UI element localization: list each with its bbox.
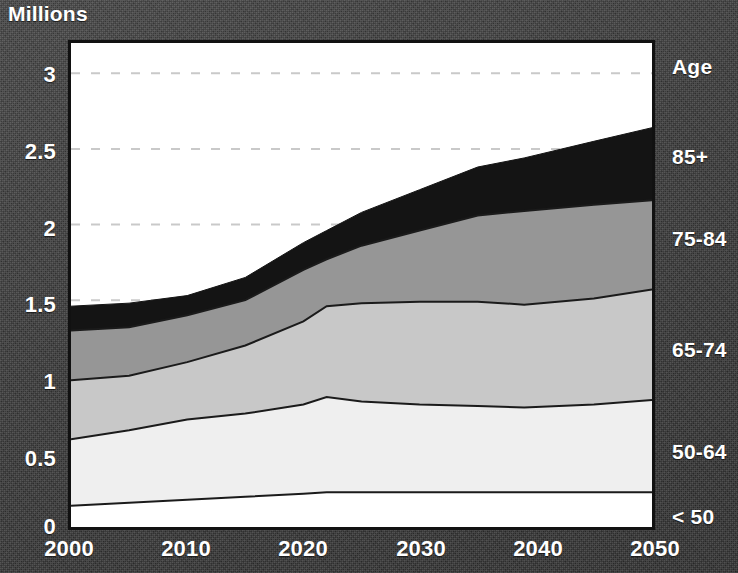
x-axis-tick-2010: 2010 bbox=[141, 536, 231, 562]
x-axis-tick-2040: 2040 bbox=[493, 536, 583, 562]
y-axis-tick-0_5: 0.5 bbox=[0, 446, 56, 472]
y-axis-tick-1_5: 1.5 bbox=[0, 292, 56, 318]
y-axis-tick-2: 2 bbox=[0, 216, 56, 242]
y-axis-tick-2_5: 2.5 bbox=[0, 139, 56, 165]
chart-title: Millions bbox=[8, 2, 88, 26]
legend-item-75-84: 75-84 bbox=[672, 227, 727, 251]
legend-item-85-plus: 85+ bbox=[672, 145, 708, 169]
chart-plot-area bbox=[68, 40, 655, 530]
y-axis-tick-3: 3 bbox=[0, 62, 56, 88]
legend-item-65-74: 65-74 bbox=[672, 338, 727, 362]
x-axis-tick-2030: 2030 bbox=[376, 536, 466, 562]
stacked-area-chart bbox=[71, 43, 652, 527]
legend-item-under-50: < 50 bbox=[672, 505, 714, 529]
area-series-group bbox=[71, 128, 652, 527]
y-axis-tick-1: 1 bbox=[0, 369, 56, 395]
legend-item-50-64: 50-64 bbox=[672, 440, 727, 464]
x-axis-tick-2000: 2000 bbox=[24, 536, 114, 562]
legend-header: Age bbox=[672, 55, 712, 79]
x-axis-tick-2020: 2020 bbox=[258, 536, 348, 562]
x-axis-tick-2050: 2050 bbox=[610, 536, 700, 562]
